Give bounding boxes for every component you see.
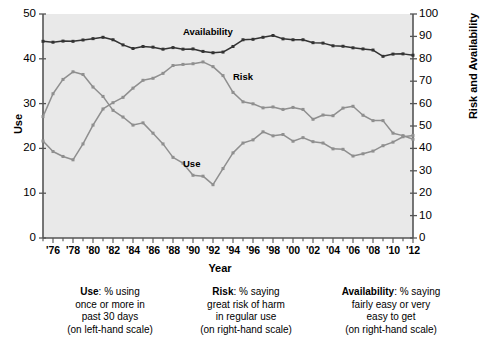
caption-headline: Availability: % saying bbox=[306, 286, 476, 299]
series-marker-use bbox=[312, 140, 315, 143]
series-marker-use bbox=[232, 151, 235, 154]
series-marker-use bbox=[242, 142, 245, 145]
series-marker-use bbox=[42, 115, 45, 118]
series-marker-use bbox=[362, 152, 365, 155]
series-marker-risk bbox=[382, 119, 385, 122]
series-marker-use bbox=[52, 92, 55, 95]
series-marker-risk bbox=[142, 79, 145, 82]
series-label-use: Use bbox=[183, 158, 200, 169]
series-label-risk: Risk bbox=[233, 71, 253, 82]
series-marker-risk bbox=[102, 107, 105, 110]
series-marker-availability bbox=[252, 38, 255, 41]
caption-line: (on right-hand scale) bbox=[166, 324, 326, 337]
series-marker-risk bbox=[292, 106, 295, 109]
y-tick-label-right: 90 bbox=[419, 29, 449, 41]
y-tick-label-left: 20 bbox=[10, 141, 36, 153]
series-marker-risk bbox=[52, 150, 55, 153]
caption-term: Use bbox=[80, 286, 98, 297]
series-marker-use bbox=[332, 147, 335, 150]
series-marker-availability bbox=[282, 37, 285, 40]
y-axis-label-right: Risk and Availability bbox=[467, 0, 479, 146]
series-marker-availability bbox=[312, 41, 315, 44]
series-marker-use bbox=[282, 133, 285, 136]
series-marker-risk bbox=[222, 74, 225, 77]
series-marker-use bbox=[172, 156, 175, 159]
series-marker-risk bbox=[162, 72, 165, 75]
series-marker-use bbox=[252, 138, 255, 141]
series-marker-availability bbox=[322, 42, 325, 45]
series-marker-risk bbox=[392, 132, 395, 135]
series-marker-use bbox=[102, 95, 105, 98]
series-marker-use bbox=[202, 175, 205, 178]
series-marker-risk bbox=[242, 100, 245, 103]
y-tick-label-right: 70 bbox=[419, 74, 449, 86]
series-marker-availability bbox=[172, 46, 175, 49]
y-tick-label-left: 0 bbox=[10, 231, 36, 243]
series-marker-availability bbox=[212, 51, 215, 54]
y-tick-label-right: 20 bbox=[419, 186, 449, 198]
series-marker-risk bbox=[272, 105, 275, 108]
y-tick-label-left: 30 bbox=[10, 97, 36, 109]
series-marker-availability bbox=[402, 52, 405, 55]
series-marker-availability bbox=[82, 38, 85, 41]
series-marker-use bbox=[342, 148, 345, 151]
series-marker-availability bbox=[332, 44, 335, 47]
series-marker-use bbox=[292, 140, 295, 143]
y-tick-label-right: 80 bbox=[419, 52, 449, 64]
series-marker-risk bbox=[342, 107, 345, 110]
series-marker-risk bbox=[412, 138, 415, 141]
series-marker-use bbox=[382, 144, 385, 147]
series-marker-use bbox=[132, 124, 135, 127]
series-marker-use bbox=[352, 155, 355, 158]
series-marker-use bbox=[92, 86, 95, 89]
series-marker-use bbox=[212, 183, 215, 186]
series-marker-use bbox=[62, 78, 65, 81]
series-label-availability: Availability bbox=[183, 26, 233, 37]
series-marker-use bbox=[372, 150, 375, 153]
caption-line: great risk of harm bbox=[166, 299, 326, 312]
y-tick-label-right: 30 bbox=[419, 164, 449, 176]
caption-line: in regular use bbox=[166, 311, 326, 324]
series-marker-availability bbox=[202, 50, 205, 53]
x-axis-label: Year bbox=[180, 262, 260, 274]
series-marker-availability bbox=[102, 36, 105, 39]
series-marker-risk bbox=[322, 114, 325, 117]
series-marker-availability bbox=[112, 38, 115, 41]
series-marker-availability bbox=[362, 47, 365, 50]
y-tick-label-right: 40 bbox=[419, 141, 449, 153]
series-marker-risk bbox=[352, 105, 355, 108]
series-marker-use bbox=[72, 70, 75, 73]
series-marker-use bbox=[302, 136, 305, 139]
caption-availability: Availability: % sayingfairly easy or ver… bbox=[306, 286, 476, 336]
series-marker-risk bbox=[192, 62, 195, 65]
series-marker-availability bbox=[242, 38, 245, 41]
series-marker-use bbox=[402, 135, 405, 138]
caption-line: easy to get bbox=[306, 311, 476, 324]
series-marker-risk bbox=[172, 64, 175, 67]
series-marker-use bbox=[142, 121, 145, 124]
caption-headline: Risk: % saying bbox=[166, 286, 326, 299]
series-marker-risk bbox=[302, 108, 305, 111]
series-marker-risk bbox=[202, 60, 205, 63]
series-marker-risk bbox=[122, 96, 125, 99]
series-marker-use bbox=[262, 130, 265, 133]
series-marker-risk bbox=[62, 155, 65, 158]
series-marker-availability bbox=[122, 43, 125, 46]
series-marker-risk bbox=[132, 87, 135, 90]
series-marker-use bbox=[322, 142, 325, 145]
series-marker-risk bbox=[72, 158, 75, 161]
series-marker-risk bbox=[312, 118, 315, 121]
y-tick-label-right: 60 bbox=[419, 97, 449, 109]
series-marker-availability bbox=[382, 55, 385, 58]
series-marker-risk bbox=[42, 140, 45, 143]
series-marker-availability bbox=[72, 40, 75, 43]
series-marker-use bbox=[82, 73, 85, 76]
series-marker-availability bbox=[352, 46, 355, 49]
series-marker-risk bbox=[282, 108, 285, 111]
series-marker-risk bbox=[372, 119, 375, 122]
series-marker-availability bbox=[222, 51, 225, 54]
y-tick-label-left: 10 bbox=[10, 186, 36, 198]
series-marker-availability bbox=[92, 37, 95, 40]
series-marker-availability bbox=[392, 53, 395, 56]
series-marker-risk bbox=[182, 63, 185, 66]
